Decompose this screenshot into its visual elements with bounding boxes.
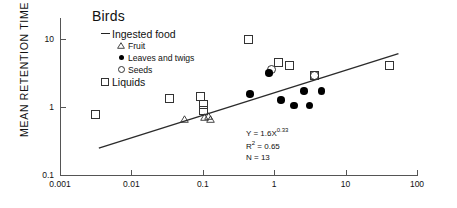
x-tick-label: 0.01 [111,180,151,189]
x-tick-label: 100 [397,180,437,189]
data-point-fruit [180,119,188,126]
x-tick [346,170,347,176]
equation-exponent: 0.33 [277,127,289,133]
r-squared-line: R2 = 0.65 [246,139,288,152]
x-tick-label: 10 [326,180,366,189]
data-point-fruit [206,119,214,126]
statistics-annotation: Y = 1.6X0.33 R2 = 0.65 N = 13 [246,126,288,164]
legend-title: Birds [92,8,194,24]
data-point-leaves-and-twigs [290,102,298,110]
legend-entry-label: Ingested food [112,28,176,40]
data-point-leaves-and-twigs [306,102,314,110]
x-axis-line [60,175,417,176]
legend-entry-ingested-food: Ingested food [98,28,194,39]
square-open-icon [98,78,112,86]
y-tick-label: 1 [28,103,54,112]
legend-entry-label: Fruit [128,41,145,51]
legend-entry-liquids: Liquids [98,76,194,87]
legend-entry-label: Liquids [112,76,145,88]
legend-entry-seeds: Seeds [114,64,194,75]
circle-open-icon [114,66,128,73]
y-tick [60,39,66,40]
y-tick [60,107,66,108]
y-axis-line [60,18,61,175]
legend-entry-fruit: Fruit [114,40,194,51]
legend-entry-leaves-and-twigs: Leaves and twigs [114,52,194,63]
x-tick [274,170,275,176]
data-point-leaves-and-twigs [300,87,308,95]
x-tick-label: 0.001 [40,180,80,189]
x-tick-label: 0.1 [183,180,223,189]
data-point-liquids [91,110,100,119]
r-squared-value: = 0.65 [255,142,280,151]
data-point-liquids [165,94,174,103]
chart-figure: MEAN RETENTION TIME (hr) 1010.10.0010.01… [0,0,457,208]
x-tick [203,170,204,176]
data-point-liquids [244,35,253,44]
data-point-liquids [285,61,294,70]
y-tick-label: 10 [28,35,54,44]
x-tick [131,170,132,176]
data-point-leaves-and-twigs [277,96,285,104]
data-point-leaves-and-twigs [318,87,326,95]
y-axis-title: MEAN RETENTION TIME (hr) [18,0,30,138]
equation-text: Y = 1.6X [246,129,277,138]
dash-icon [98,33,112,34]
x-tick [60,170,61,176]
data-point-leaves-and-twigs [265,69,273,77]
x-tick-label: 1 [254,180,294,189]
sample-size-line: N = 13 [246,153,288,164]
chart-legend: Birds Ingested foodFruitLeaves and twigs… [92,8,194,87]
data-point-liquids [385,61,394,70]
legend-entry-label: Seeds [128,65,152,75]
equation-line: Y = 1.6X0.33 [246,126,288,139]
x-tick [417,170,418,176]
triangle-open-icon [114,42,128,49]
circle-filled-icon [114,55,128,60]
regression-line [0,0,457,208]
legend-entry-label: Leaves and twigs [128,53,194,63]
legend-entries: Ingested foodFruitLeaves and twigsSeedsL… [92,28,194,87]
data-point-leaves-and-twigs [246,90,254,98]
